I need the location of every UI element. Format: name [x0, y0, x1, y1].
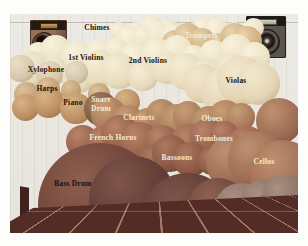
- section-label-harps[interactable]: Harps: [36, 85, 57, 94]
- section-label-violas[interactable]: Violas: [226, 77, 247, 86]
- section-label-clarinets[interactable]: Clarinets: [123, 114, 154, 123]
- speaker-nameplate: [40, 23, 58, 29]
- section-label-xylophone[interactable]: Xylophone: [28, 66, 64, 75]
- section-label-snare-drum[interactable]: Snare Drum: [91, 96, 111, 113]
- section-label-cellos[interactable]: Cellos: [254, 158, 275, 167]
- section-label-piano[interactable]: Piano: [63, 99, 82, 108]
- section-label-tuba[interactable]: Tuba: [204, 200, 221, 209]
- section-label-trombones[interactable]: Trombones: [195, 135, 233, 144]
- section-label-french-horns[interactable]: French Horns: [89, 134, 136, 143]
- orchestra-scene: ChimesFlutesTrumpets1st Violins2nd Violi…: [10, 14, 298, 233]
- section-label-second-violins[interactable]: 2nd Violins: [129, 57, 167, 66]
- stage-corner-wall: [20, 186, 29, 229]
- orchestra-app-window: ChimesFlutesTrumpets1st Violins2nd Violi…: [0, 0, 308, 246]
- section-label-trumpets[interactable]: Trumpets: [185, 32, 218, 41]
- section-label-bass-violins[interactable]: Bass Violins: [244, 199, 280, 216]
- section-label-timpani[interactable]: Timpani: [136, 208, 165, 217]
- section-label-chimes[interactable]: Chimes: [84, 24, 109, 33]
- section-label-bassoons[interactable]: Bassoons: [162, 154, 193, 163]
- section-label-first-violins[interactable]: 1st Violins: [68, 54, 103, 63]
- section-label-bass-drum[interactable]: Bass Drum: [54, 180, 91, 189]
- section-label-oboes[interactable]: Oboes: [201, 115, 222, 124]
- section-label-flutes[interactable]: Flutes: [136, 26, 157, 35]
